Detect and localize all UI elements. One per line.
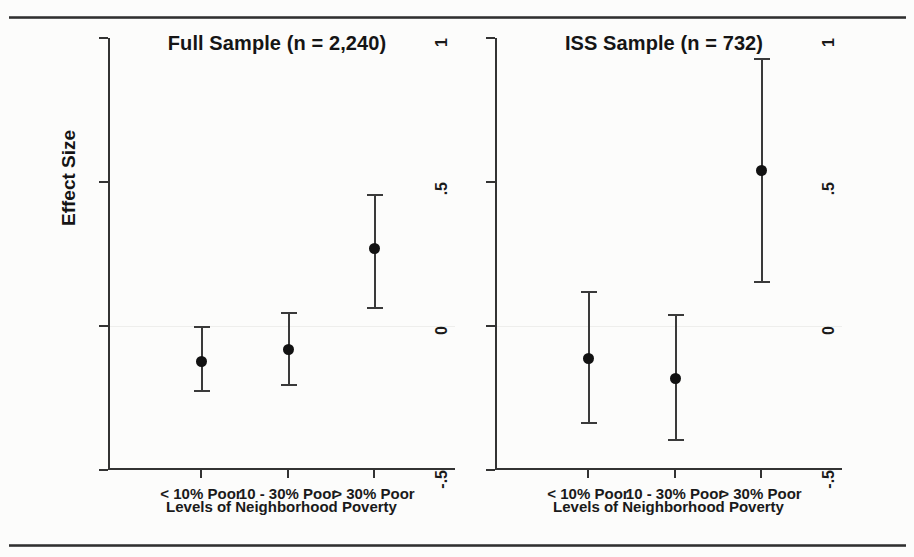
x-axis-tick [287, 470, 289, 478]
error-bar-cap-upper [367, 194, 383, 196]
y-axis-tick-label: .5 [820, 182, 838, 195]
x-axis-tick [674, 470, 676, 478]
y-axis-line [495, 38, 497, 470]
y-axis-tick [486, 325, 495, 327]
zero-reference-line [497, 326, 842, 327]
error-bar-cap-lower [367, 307, 383, 309]
x-axis-label: Levels of Neighborhood Poverty [495, 498, 842, 515]
data-point-marker [756, 165, 767, 176]
plot-area-full-sample: 1.50-.5< 10% Poor10 - 30% Poor> 30% Poor [108, 38, 455, 470]
y-axis-tick [486, 181, 495, 183]
y-axis-line [108, 38, 110, 470]
error-bar-cap-lower [281, 384, 297, 386]
x-axis-line [108, 468, 455, 470]
page-rule-top [9, 16, 906, 19]
error-bar-cap-upper [281, 312, 297, 314]
y-axis-tick [99, 181, 108, 183]
panel-iss-sample: ISS Sample (n = 732) 1.50-.5< 10% Poor10… [447, 30, 847, 510]
panel-full-sample: Full Sample (n = 2,240) Effect Size 1.50… [60, 30, 460, 510]
y-axis-tick-label: 1 [820, 38, 838, 47]
x-axis-tick [760, 470, 762, 478]
zero-reference-line [110, 326, 455, 327]
error-bar-cap-upper [581, 291, 597, 293]
y-axis-label: Effect Size [58, 130, 80, 226]
error-bar [761, 58, 762, 283]
data-point-marker [583, 353, 594, 364]
error-bar-cap-lower [581, 422, 597, 424]
x-axis-label: Levels of Neighborhood Poverty [108, 498, 455, 515]
error-bar-cap-lower [668, 439, 684, 441]
y-axis-tick [99, 37, 108, 39]
error-bar-cap-upper [754, 58, 770, 60]
y-axis-tick [99, 469, 108, 471]
x-axis-tick [200, 470, 202, 478]
error-bar-cap-lower [754, 281, 770, 283]
y-axis-tick-label: -.5 [820, 470, 838, 489]
error-bar [201, 326, 202, 392]
y-axis-tick [99, 325, 108, 327]
error-bar [588, 291, 589, 423]
data-point-marker [369, 243, 380, 254]
error-bar [675, 314, 676, 441]
data-point-marker [670, 373, 681, 384]
x-axis-tick [587, 470, 589, 478]
x-axis-tick [373, 470, 375, 478]
data-point-marker [196, 356, 207, 367]
error-bar [288, 312, 289, 387]
plot-area-iss-sample: 1.50-.5< 10% Poor10 - 30% Poor> 30% Poor [495, 38, 842, 470]
y-axis-tick-label: 0 [820, 326, 838, 335]
y-axis-tick [486, 37, 495, 39]
x-axis-line [495, 468, 842, 470]
error-bar-cap-lower [194, 390, 210, 392]
page-rule-bottom [9, 544, 906, 547]
figure-container: Full Sample (n = 2,240) Effect Size 1.50… [0, 0, 914, 557]
error-bar-cap-upper [194, 326, 210, 328]
error-bar [374, 194, 375, 309]
error-bar-cap-upper [668, 314, 684, 316]
y-axis-tick [486, 469, 495, 471]
data-point-marker [283, 344, 294, 355]
